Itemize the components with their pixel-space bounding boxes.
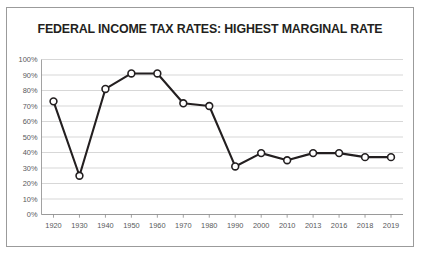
y-axis-tick-label: 20%: [23, 179, 38, 188]
x-axis-tick-label: 1920: [45, 221, 61, 230]
x-axis-tick-label: 2013: [305, 221, 321, 230]
x-axis-tick-label: 1990: [227, 221, 243, 230]
y-axis-tick-labels: 100%90%80%70%60%50%40%30%20%10%0%: [19, 55, 38, 219]
chart-svg: 100%90%80%70%60%50%40%30%20%10%0% 192019…: [7, 8, 415, 248]
data-point-marker: [310, 150, 317, 157]
data-point-marker: [180, 100, 187, 107]
y-axis-tick-label: 80%: [23, 86, 38, 95]
x-axis-tick-label: 1970: [175, 221, 191, 230]
y-axis-tick-label: 50%: [23, 133, 38, 142]
y-axis-tick-label: 30%: [23, 164, 38, 173]
x-axis-tick-labels: 1920193019401950196019701980199020002010…: [45, 221, 399, 230]
x-axis-tick-label: 1950: [123, 221, 139, 230]
x-axis-tick-label: 2000: [253, 221, 269, 230]
data-point-marker: [206, 103, 213, 110]
data-point-marker: [388, 154, 395, 161]
x-axis-tick-label: 2018: [357, 221, 373, 230]
x-axis-tick-label: 2016: [331, 221, 347, 230]
y-axis-tick-label: 60%: [23, 117, 38, 126]
data-markers: [50, 70, 394, 179]
data-point-marker: [128, 70, 135, 77]
data-point-marker: [232, 163, 239, 170]
data-point-marker: [362, 154, 369, 161]
y-axis-tick-label: 40%: [23, 148, 38, 157]
y-axis-tick-label: 10%: [23, 195, 38, 204]
y-axis-tick-label: 100%: [19, 55, 38, 64]
plot-area: 100%90%80%70%60%50%40%30%20%10%0% 192019…: [7, 8, 415, 248]
y-axis-tick-label: 90%: [23, 71, 38, 80]
x-axis-tick-label: 2010: [279, 221, 295, 230]
x-axis-tick-label: 1980: [201, 221, 217, 230]
x-axis-tick-label: 1960: [149, 221, 165, 230]
y-axis-tick-label: 70%: [23, 102, 38, 111]
y-axis-tick-label: 0%: [27, 210, 38, 219]
data-point-marker: [284, 157, 291, 164]
chart-container: FEDERAL INCOME TAX RATES: HIGHEST MARGIN…: [6, 7, 414, 247]
data-point-marker: [154, 70, 161, 77]
data-point-marker: [258, 150, 265, 157]
data-point-marker: [76, 172, 83, 179]
x-axis-tick-label: 1930: [71, 221, 87, 230]
data-point-marker: [50, 98, 57, 105]
data-point-marker: [336, 150, 343, 157]
x-axis-tick-label: 1940: [97, 221, 113, 230]
data-point-marker: [102, 86, 109, 93]
x-axis-tick-label: 2019: [383, 221, 399, 230]
